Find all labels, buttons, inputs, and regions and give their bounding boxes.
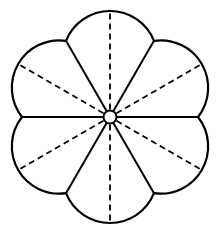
flower-diagram [0,0,216,234]
petal-arc [12,117,66,194]
petal-arc [154,117,208,194]
solid-divider-line [66,123,107,194]
dashed-midline [116,64,201,113]
dashed-midline [116,121,201,170]
dashed-midline [18,64,103,113]
flower-figure [0,0,216,234]
petal-arc [12,40,66,117]
petal-arc [154,40,208,117]
center-hub [104,111,117,124]
dashed-midline [18,121,103,170]
solid-divider-line [66,41,107,112]
solid-divider-line [113,123,154,194]
solid-divider-line [113,41,154,112]
